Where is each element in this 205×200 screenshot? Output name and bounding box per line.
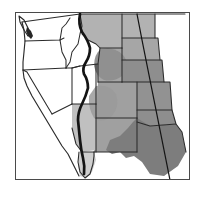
region-kansas — [137, 82, 172, 110]
region-south-dakota — [122, 38, 160, 60]
region-nebraska — [122, 60, 164, 82]
region-north-dakota — [122, 14, 155, 38]
map-figure — [0, 0, 205, 200]
western-us-choropleth-map — [0, 0, 205, 200]
